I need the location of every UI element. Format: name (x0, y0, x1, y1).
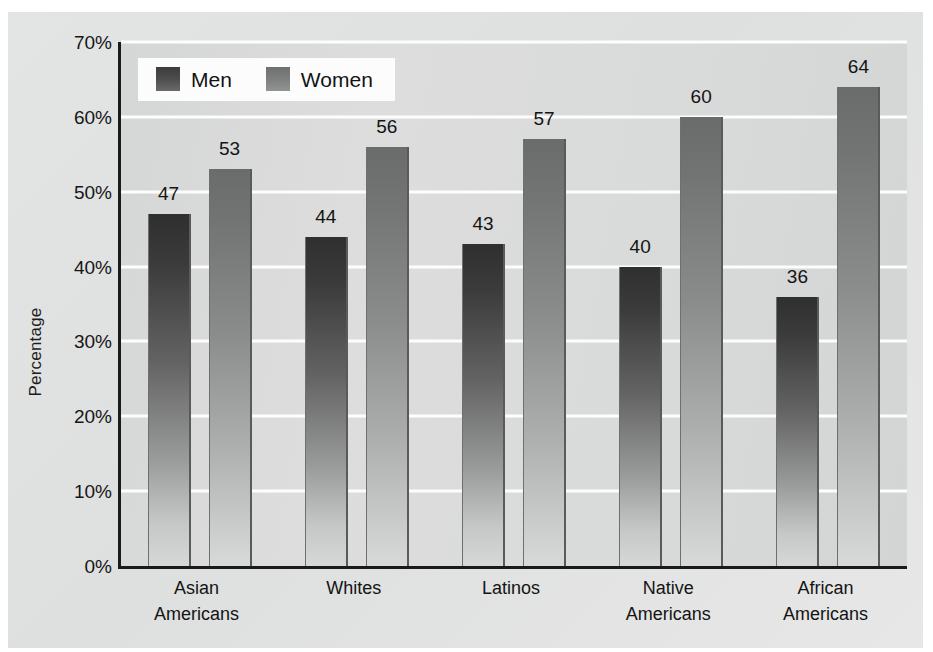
y-tick-10: 10% (48, 482, 112, 501)
x-label-native-americans: NativeAmericans (590, 575, 747, 627)
bar-series-container: 47534456435740603664 (121, 42, 907, 566)
bar-men-latinos[interactable]: 43 (462, 244, 505, 566)
x-axis-category-labels: AsianAmericansWhitesLatinosNativeAmerica… (118, 575, 904, 645)
x-label-asian-americans: AsianAmericans (118, 575, 275, 627)
bar-value-label: 47 (158, 184, 179, 203)
x-label-line: Americans (747, 601, 904, 627)
bar-group: 3664 (750, 42, 907, 566)
bar-women-native-americans[interactable]: 60 (680, 117, 723, 566)
bar-group: 4753 (121, 42, 278, 566)
bar-group: 4357 (435, 42, 592, 566)
y-tick-20: 20% (48, 407, 112, 426)
x-label-line: African (747, 575, 904, 601)
bar-men-african-americans[interactable]: 36 (776, 297, 819, 566)
x-label-latinos: Latinos (432, 575, 589, 601)
legend-swatch-women-icon (266, 67, 290, 91)
bar-women-latinos[interactable]: 57 (523, 139, 566, 566)
bar-value-label: 60 (691, 87, 712, 106)
bar-group: 4060 (593, 42, 750, 566)
bar-value-label: 57 (533, 109, 554, 128)
y-tick-50: 50% (48, 182, 112, 201)
y-tick-70: 70% (48, 33, 112, 52)
x-label-african-americans: AfricanAmericans (747, 575, 904, 627)
bar-value-label: 44 (315, 207, 336, 226)
x-label-line: Americans (118, 601, 275, 627)
bar-group: 4456 (278, 42, 435, 566)
x-label-line: Asian (118, 575, 275, 601)
bar-value-label: 53 (219, 139, 240, 158)
bar-women-african-americans[interactable]: 64 (837, 87, 880, 566)
legend-swatch-men-icon (156, 67, 180, 91)
x-label-whites: Whites (275, 575, 432, 601)
legend-entry-women[interactable]: Women (266, 67, 373, 91)
bar-men-asian-americans[interactable]: 47 (148, 214, 191, 566)
bar-women-whites[interactable]: 56 (366, 147, 409, 566)
y-tick-30: 30% (48, 332, 112, 351)
bar-value-label: 64 (848, 57, 869, 76)
x-label-line: Whites (275, 575, 432, 601)
bar-value-label: 40 (630, 237, 651, 256)
legend-label: Men (191, 69, 232, 90)
chart-figure: Percentage 0%10%20%30%40%50%60%70% 47534… (0, 0, 933, 652)
legend: MenWomen (138, 58, 395, 101)
y-tick-40: 40% (48, 257, 112, 276)
y-tick-60: 60% (48, 107, 112, 126)
bar-men-native-americans[interactable]: 40 (619, 267, 662, 566)
y-axis-tick-labels: 0%10%20%30%40%50%60%70% (34, 0, 112, 652)
bar-value-label: 56 (376, 117, 397, 136)
legend-label: Women (301, 69, 373, 90)
x-label-line: Americans (590, 601, 747, 627)
bar-men-whites[interactable]: 44 (305, 237, 348, 566)
x-label-line: Native (590, 575, 747, 601)
x-label-line: Latinos (432, 575, 589, 601)
bar-women-asian-americans[interactable]: 53 (209, 169, 252, 566)
bar-value-label: 43 (472, 214, 493, 233)
bar-value-label: 36 (787, 267, 808, 286)
legend-entry-men[interactable]: Men (156, 67, 232, 91)
plot-area: 47534456435740603664 MenWomen (118, 42, 907, 569)
y-tick-0: 0% (48, 557, 112, 576)
